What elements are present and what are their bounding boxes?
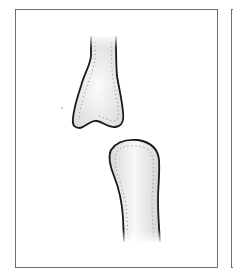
lower-bone — [110, 140, 164, 244]
upper-bone — [73, 34, 124, 128]
bone-illustration — [0, 0, 233, 276]
